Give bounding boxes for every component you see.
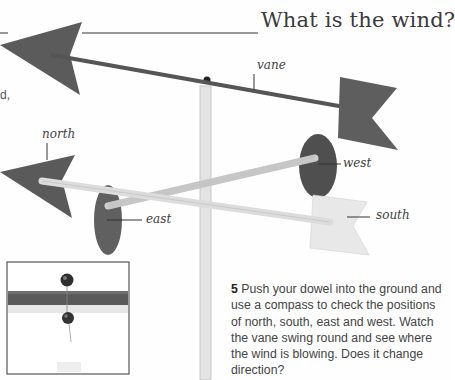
label-east: east bbox=[146, 212, 171, 226]
west-disc bbox=[299, 134, 337, 198]
label-west: west bbox=[343, 156, 371, 170]
step-number: 5 bbox=[231, 282, 238, 296]
label-south: south bbox=[376, 208, 410, 222]
vane-tail bbox=[338, 77, 398, 150]
inset-photo bbox=[7, 262, 129, 374]
step-5-instructions: 5 Push your dowel into the ground and us… bbox=[231, 281, 449, 379]
post-dowel bbox=[200, 86, 211, 380]
label-vane: vane bbox=[257, 58, 286, 72]
step-text: Push your dowel into the ground and use … bbox=[231, 282, 442, 377]
south-tail bbox=[310, 195, 369, 255]
label-north: north bbox=[42, 127, 75, 141]
page-title: What is the wind? bbox=[261, 8, 455, 32]
cut-off-text: d, bbox=[0, 88, 10, 102]
